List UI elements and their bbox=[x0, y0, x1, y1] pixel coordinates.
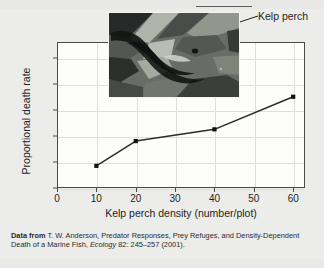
x-axis-tick-label: 40 bbox=[209, 193, 220, 204]
y-axis-tick-mark bbox=[53, 161, 57, 162]
x-axis-tick-label: 10 bbox=[91, 193, 102, 204]
x-axis-tick-mark bbox=[136, 188, 137, 192]
source-journal: Ecology bbox=[90, 240, 116, 249]
gridline-horizontal bbox=[58, 189, 304, 190]
y-axis-tick-mark bbox=[53, 57, 57, 58]
x-axis-tick-label: 20 bbox=[130, 193, 141, 204]
y-axis-tick-mark bbox=[53, 135, 57, 136]
gridline-vertical bbox=[294, 43, 295, 187]
clipped-rule bbox=[196, 6, 252, 7]
source-lead: Data from bbox=[11, 231, 46, 240]
source-note: Data from T. W. Anderson, Predator Respo… bbox=[11, 231, 311, 250]
clipped-text-sliver bbox=[0, 0, 324, 9]
kelp-perch-photo bbox=[108, 12, 240, 98]
x-axis-title: Kelp perch density (number/plot) bbox=[57, 207, 305, 219]
source-text-after: 82: 245–257 (2001). bbox=[116, 240, 185, 249]
x-axis-tick-label: 60 bbox=[288, 193, 299, 204]
x-axis-tick-mark bbox=[96, 188, 97, 192]
x-axis-tick-mark bbox=[254, 188, 255, 192]
figure-panel: Kelp perch 00.20.40.60.81.00102030405060… bbox=[0, 9, 324, 259]
y-axis-tick-mark bbox=[53, 109, 57, 110]
x-axis-tick-mark bbox=[214, 188, 215, 192]
x-axis-tick-mark bbox=[175, 188, 176, 192]
gridline-horizontal bbox=[58, 163, 304, 164]
x-axis-tick-mark bbox=[57, 188, 58, 192]
gridline-horizontal bbox=[58, 137, 304, 138]
x-axis-tick-mark bbox=[293, 188, 294, 192]
photo-artwork bbox=[109, 13, 240, 98]
y-axis-tick-mark bbox=[53, 83, 57, 84]
gridline-vertical bbox=[97, 43, 98, 187]
x-axis-tick-label: 30 bbox=[170, 193, 181, 204]
y-axis-title: Proportional death rate bbox=[20, 41, 32, 201]
x-axis-tick-label: 0 bbox=[54, 193, 60, 204]
clipped-text-remnant bbox=[38, 0, 41, 4]
x-axis-tick-label: 50 bbox=[248, 193, 259, 204]
gridline-horizontal bbox=[58, 111, 304, 112]
gridline-vertical bbox=[255, 43, 256, 187]
callout-label: Kelp perch bbox=[258, 10, 308, 22]
